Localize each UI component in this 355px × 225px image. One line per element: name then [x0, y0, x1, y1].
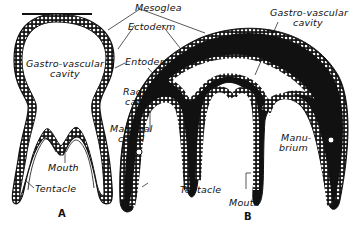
marginal-canal-left: [136, 149, 142, 155]
label-radial-canal-2: canal: [125, 97, 152, 107]
label-gv-cavity-a-2: cavity: [50, 69, 80, 79]
panel-caption-b: B: [244, 211, 252, 222]
label-marginal-canal-2: canal: [118, 134, 145, 144]
label-tentacle-b: Tentacle: [180, 185, 221, 195]
polyp-a: [12, 14, 114, 204]
panel-caption-a: A: [58, 208, 66, 219]
label-manubrium-2: brium: [279, 143, 308, 153]
label-mesoglea: Mesoglea: [135, 3, 182, 13]
medusa-manubrium-right: [234, 90, 256, 190]
label-ectoderm: Ectoderm: [128, 22, 175, 32]
label-entoderm: Entoderm: [125, 57, 173, 67]
label-tentacle-a: Tentacle: [35, 184, 76, 194]
label-mouth-a: Mouth: [48, 163, 79, 173]
label-mouth-b: Mouth: [229, 198, 260, 208]
marginal-canal-right: [328, 137, 334, 143]
label-gv-cavity-b-2: cavity: [293, 18, 323, 28]
